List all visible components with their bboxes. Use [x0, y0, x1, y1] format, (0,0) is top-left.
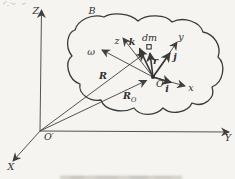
z-axis [123, 38, 153, 77]
label-axis-Y: Y [225, 132, 233, 143]
label-unit-i: i [165, 83, 169, 94]
omega-vector-line [102, 50, 153, 77]
scan-artifact-top-left [3, 2, 26, 7]
label-axis-y: y [177, 31, 184, 42]
Z-axis [40, 10, 42, 131]
RO-vector-line [40, 81, 147, 132]
label-vector-r: r [153, 55, 159, 66]
label-axis-X: X [7, 161, 16, 172]
rigid-body-diagram: B Z Y X O′ O dm ω z y x k j i r R RO [0, 0, 235, 179]
label-axis-Z: Z [31, 5, 39, 16]
body-origin-point [151, 75, 155, 79]
mass-element-square [147, 45, 151, 49]
label-vector-RO: RO [122, 90, 137, 104]
scan-artifact-caption [60, 176, 182, 179]
label-axis-x: x [188, 82, 194, 93]
label-vector-R: R [98, 70, 107, 81]
label-unit-k: k [129, 36, 136, 47]
Y-axis [40, 131, 229, 132]
figure-canvas: B Z Y X O′ O dm ω z y x k j i r R RO [0, 0, 235, 179]
label-vector-RO-sub: O [131, 96, 137, 104]
label-body-origin: O [156, 78, 164, 89]
label-body-B: B [88, 5, 96, 16]
X-axis [13, 131, 40, 161]
label-unit-j: j [171, 51, 177, 62]
label-mass-element: dm [142, 32, 157, 43]
label-vector-RO-main: R [122, 90, 131, 101]
body-outline [68, 14, 223, 114]
label-axis-z: z [113, 35, 120, 46]
label-omega: ω [87, 46, 95, 57]
label-inertial-origin: O′ [44, 131, 55, 142]
